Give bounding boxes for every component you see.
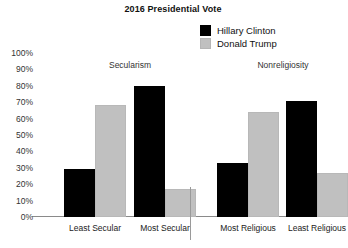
bar-clinton bbox=[286, 101, 317, 217]
bar-trump bbox=[317, 173, 348, 217]
legend-label-clinton: Hillary Clinton bbox=[217, 25, 276, 36]
y-axis-tick-label: 100% bbox=[11, 48, 33, 58]
legend-swatch-trump bbox=[200, 38, 211, 49]
x-axis-category-label: Most Secular bbox=[140, 223, 190, 233]
group-header: Secularism bbox=[109, 60, 151, 70]
y-axis-tick-label: 90% bbox=[16, 64, 33, 74]
x-axis-category-label: Least Religious bbox=[288, 223, 346, 233]
group-divider bbox=[190, 187, 191, 240]
plot-area: 100%90%80%70%60%50%40%30%20%10%0%Least S… bbox=[38, 53, 338, 217]
y-axis-tick-label: 70% bbox=[16, 97, 33, 107]
legend-item-clinton: Hillary Clinton bbox=[200, 24, 277, 36]
y-axis-tick-label: 80% bbox=[16, 81, 33, 91]
y-axis-tick-label: 20% bbox=[16, 179, 33, 189]
y-axis-tick-label: 60% bbox=[16, 114, 33, 124]
bar-trump bbox=[248, 112, 279, 217]
legend-swatch-clinton bbox=[200, 25, 211, 36]
chart-legend: Hillary Clinton Donald Trump bbox=[200, 24, 277, 50]
bar-trump bbox=[165, 189, 196, 217]
x-axis-category-label: Most Religious bbox=[220, 223, 276, 233]
x-axis-category-label: Least Secular bbox=[69, 223, 121, 233]
group-header: Nonreligiosity bbox=[257, 60, 308, 70]
bar-clinton bbox=[64, 169, 95, 217]
bar-clinton bbox=[134, 86, 165, 217]
bar-trump bbox=[95, 105, 126, 217]
y-axis-tick-label: 0% bbox=[21, 212, 33, 222]
legend-item-trump: Donald Trump bbox=[200, 37, 277, 49]
legend-label-trump: Donald Trump bbox=[217, 38, 277, 49]
y-axis-tick-label: 40% bbox=[16, 146, 33, 156]
bar-clinton bbox=[217, 163, 248, 217]
y-axis-tick-label: 10% bbox=[16, 196, 33, 206]
y-axis-tick-label: 50% bbox=[16, 130, 33, 140]
chart-title: 2016 Presidential Vote bbox=[0, 4, 346, 14]
y-axis-tick-label: 30% bbox=[16, 163, 33, 173]
